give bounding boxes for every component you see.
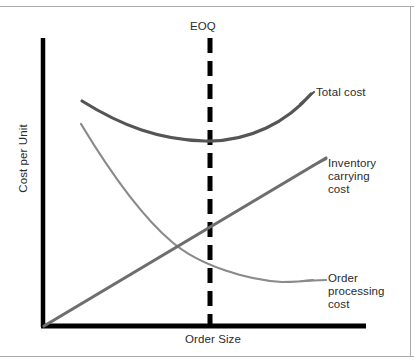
order-processing-cost-leader-line <box>302 280 326 281</box>
y-axis-label: Cost per Unit <box>17 119 30 199</box>
order-processing-cost-curve <box>81 124 313 282</box>
x-axis-label: Order Size <box>185 333 241 346</box>
inventory-carrying-cost-leader-line <box>312 159 326 166</box>
eoq-chart-figure: EOQ Total cost Inventory carrying cost O… <box>0 0 414 363</box>
order-processing-cost-label: Order processing cost <box>328 272 385 311</box>
total-cost-label: Total cost <box>316 86 366 99</box>
inventory-carrying-cost-label: Inventory carrying cost <box>328 157 376 196</box>
eoq-label: EOQ <box>190 20 216 33</box>
inventory-carrying-cost-line <box>44 158 326 326</box>
total-cost-curve <box>82 94 311 141</box>
total-cost-leader-line <box>300 92 314 104</box>
